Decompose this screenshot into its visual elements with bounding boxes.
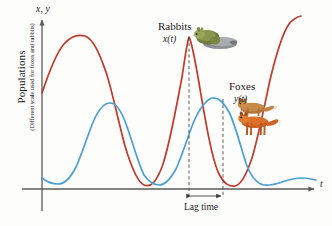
x-axis-variable-label: t bbox=[320, 180, 323, 190]
foxes-function-label: y(t) bbox=[234, 95, 247, 105]
y-axis-title: Populations bbox=[15, 7, 27, 147]
lag-time-label: Lag time bbox=[184, 203, 218, 213]
rabbits-series-label: Rabbits bbox=[158, 21, 192, 33]
rabbit-icon bbox=[193, 27, 237, 49]
foxes-curve bbox=[42, 98, 316, 185]
y-axis-title-group: Populations (Different scale used for fo… bbox=[15, 7, 45, 147]
foxes-series-label: Foxes bbox=[229, 81, 255, 93]
predator-prey-population-figure: x, y t Populations (Different scale used… bbox=[0, 0, 332, 226]
rabbits-function-label: x(t) bbox=[163, 35, 176, 45]
y-axis-subtitle: (Different scale used for foxes and rabb… bbox=[28, 7, 35, 147]
